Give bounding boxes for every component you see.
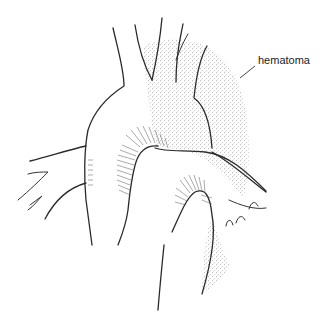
descending-aorta-left-wall: [158, 245, 164, 310]
pulmonary-hatching: [175, 175, 212, 205]
hematoma-label: hematoma: [258, 54, 311, 66]
pulmonary-artery-top: [118, 146, 158, 245]
left-pulmonary-branch-top: [30, 146, 86, 161]
hematoma-leader-line: [240, 66, 255, 78]
aortic-hematoma-illustration: hematoma: [0, 0, 323, 316]
right-pulmonary-twig-2: [236, 216, 245, 223]
right-pulmonary-edge: [229, 200, 266, 208]
hematoma-region-lower: [202, 215, 230, 294]
ascending-hatching: [88, 160, 93, 185]
left-pulmonary-twig-1: [18, 172, 48, 200]
hematoma-region-upper: [144, 40, 249, 199]
left-pulmonary-twig-2: [28, 196, 42, 210]
left-pulmonary-branch-bottom: [45, 183, 86, 219]
right-pulmonary-twig-3: [226, 220, 233, 226]
ascending-aorta-left-wall: [85, 28, 124, 245]
